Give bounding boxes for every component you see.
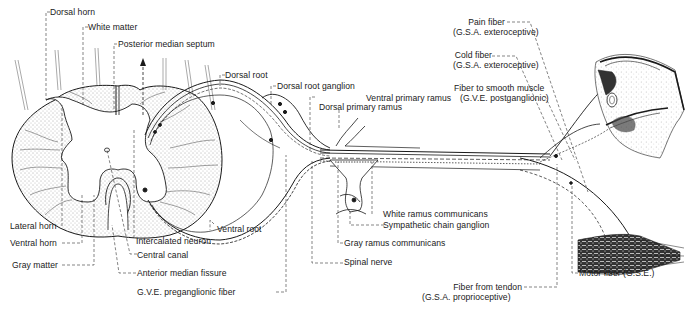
label-fiber-from-tendon-type: (G.S.A. proprioceptive) — [422, 292, 511, 302]
label-cold-fiber: Cold fiber — [440, 50, 492, 60]
label-ventral-horn: Ventral horn — [10, 238, 57, 248]
label-fiber-to-smooth-muscle: Fiber to smooth muscle — [454, 83, 544, 93]
label-white-matter: White matter — [88, 22, 137, 32]
label-lateral-horn: Lateral horn — [10, 221, 56, 231]
label-posterior-median-septum: Posterior median septum — [118, 39, 215, 49]
label-gray-ramus: Gray ramus communicans — [344, 238, 445, 248]
label-sympathetic-chain-ganglion: Sympathetic chain ganglion — [383, 220, 489, 230]
label-motor-fiber: Motor fiber (G.S.E.) — [579, 268, 655, 278]
label-smooth-muscle-type: (G.V.E. postganglionic) — [460, 93, 549, 103]
label-pain-fiber-type: (G.S.A. exteroceptive) — [453, 27, 539, 37]
label-gray-matter: Gray matter — [12, 260, 58, 270]
label-dorsal-root-ganglion: Dorsal root ganglion — [277, 81, 355, 91]
label-anterior-median-fissure: Anterior median fissure — [137, 268, 227, 278]
label-dorsal-primary-ramus: Dorsal primary ramus — [319, 102, 402, 112]
label-central-canal: Central canal — [137, 250, 188, 260]
label-spinal-nerve: Spinal nerve — [344, 257, 392, 267]
label-ventral-root: Ventral root — [217, 224, 262, 234]
label-cold-fiber-type: (G.S.A. exteroceptive) — [453, 60, 539, 70]
label-intercalated-neuron: Intercalated neuron — [136, 236, 211, 246]
label-ventral-primary-ramus: Ventral primary ramus — [366, 93, 451, 103]
label-pain-fiber: Pain fiber — [445, 17, 505, 27]
label-white-ramus: White ramus communicans — [383, 209, 488, 219]
label-gve-preganglionic-fiber: G.V.E. preganglionic fiber — [137, 287, 235, 297]
skin-section — [595, 54, 684, 158]
spinal-cord — [12, 48, 222, 238]
label-dorsal-root: Dorsal root — [225, 70, 268, 80]
label-dorsal-horn: Dorsal horn — [50, 7, 95, 17]
label-fiber-from-tendon: Fiber from tendon — [440, 282, 522, 292]
sympathetic-chain-ganglion — [330, 160, 378, 214]
